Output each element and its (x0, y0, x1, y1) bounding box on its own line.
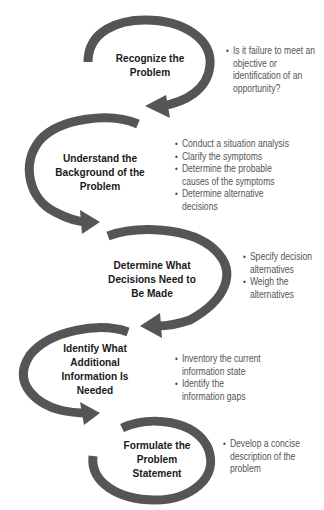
step-title-understand: Understand the Background of the Problem (52, 151, 149, 193)
bullet-item: Identify the information gaps (175, 378, 261, 403)
bullets-recognize: Is it failure to meet an objective or id… (226, 45, 316, 95)
bullets-identify: Inventory the current information state … (175, 353, 261, 403)
bullet-item: Conduct a situation analysis (175, 138, 300, 151)
arrowhead-3 (140, 313, 162, 338)
step-title-formulate: Formulate the Problem Statement (109, 438, 206, 480)
title-line: Problem (102, 65, 199, 79)
arrowhead-4 (80, 402, 100, 425)
title-line: Background of the (52, 165, 149, 179)
title-line: Identify What (47, 341, 144, 355)
bullet-item: Clarify the symptoms (175, 151, 300, 164)
bullets-determine: Specify decision alternatives Weigh the … (243, 251, 316, 301)
bullet-item: Weigh the alternatives (243, 276, 316, 301)
bullet-item: Specify decision alternatives (243, 251, 316, 276)
arrowhead-2 (80, 210, 100, 234)
title-line: Information Is (47, 369, 144, 383)
bullets-understand: Conduct a situation analysis Clarify the… (175, 138, 300, 214)
arrowhead-1 (145, 95, 170, 118)
bullets-formulate: Develop a concise description of the pro… (223, 438, 309, 476)
bullet-item: Determine alternative decisions (175, 188, 300, 213)
bullet-item: Determine the probable causes of the sym… (175, 163, 300, 188)
bullet-item: Develop a concise description of the pro… (223, 438, 309, 476)
step-title-recognize: Recognize the Problem (102, 51, 199, 79)
step-title-identify: Identify What Additional Information Is … (47, 341, 144, 397)
step-title-determine: Determine What Decisions Need to Be Made (103, 258, 202, 300)
bullet-item: Inventory the current information state (175, 353, 261, 378)
title-line: Decisions Need to (103, 272, 202, 286)
title-line: Recognize the (102, 51, 199, 65)
title-line: Be Made (103, 286, 202, 300)
title-line: Statement (109, 466, 206, 480)
bullet-item: Is it failure to meet an objective or id… (226, 45, 316, 95)
title-line: Needed (47, 383, 144, 397)
title-line: Formulate the (109, 438, 206, 452)
title-line: Problem (52, 179, 149, 193)
title-line: Problem (109, 452, 206, 466)
title-line: Additional (47, 355, 144, 369)
title-line: Understand the (52, 151, 149, 165)
title-line: Determine What (103, 258, 202, 272)
